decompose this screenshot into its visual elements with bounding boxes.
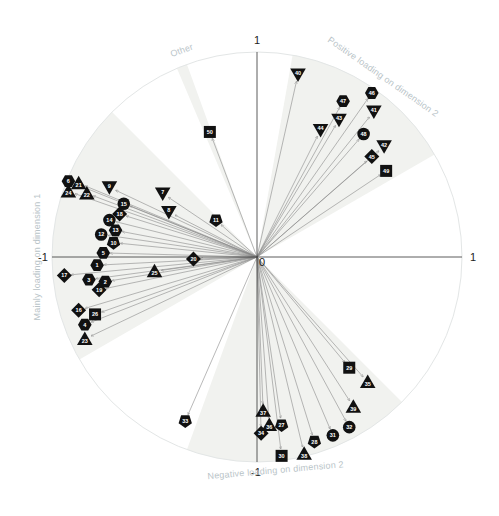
marker-label: 10 (110, 240, 116, 246)
marker-label: 21 (76, 182, 82, 188)
marker-label: 2 (104, 279, 107, 285)
marker-12: 12 (95, 228, 108, 241)
marker-label: 40 (295, 70, 301, 76)
marker-label: 5 (102, 250, 105, 256)
marker-29: 29 (343, 362, 355, 374)
marker-label: 18 (117, 211, 123, 217)
marker-50: 50 (204, 126, 216, 138)
marker-label: 19 (96, 287, 102, 293)
marker-label: 31 (330, 432, 336, 438)
marker-label: 47 (340, 98, 346, 104)
marker-33: 33 (179, 415, 192, 428)
marker-label: 44 (317, 125, 324, 131)
marker-label: 48 (361, 131, 367, 137)
origin-label: 0 (259, 256, 265, 268)
marker-label: 7 (161, 189, 164, 195)
region-label-2: Mainly loading on dimension 1 (32, 194, 42, 321)
marker-label: 37 (260, 410, 266, 416)
marker-label: 43 (336, 115, 342, 121)
marker-label: 29 (346, 365, 352, 371)
marker-label: 25 (151, 270, 157, 276)
sector-2 (187, 257, 402, 462)
marker-label: 9 (108, 183, 111, 189)
marker-label: 30 (279, 453, 285, 459)
marker-label: 6 (67, 178, 70, 184)
marker-label: 14 (106, 217, 113, 223)
region-label-3: Negative loading on dimension 2 (207, 459, 344, 481)
marker-label: 22 (84, 192, 90, 198)
marker-label: 49 (383, 168, 389, 174)
marker-label: 15 (121, 201, 127, 207)
region-label-0: Other (169, 42, 195, 59)
marker-label: 42 (381, 142, 387, 148)
marker-31: 31 (327, 429, 340, 442)
marker-label: 28 (311, 439, 317, 445)
marker-label: 45 (369, 154, 375, 160)
marker-label: 16 (76, 307, 82, 313)
marker-label: 17 (61, 272, 67, 278)
marker-label: 39 (350, 406, 356, 412)
marker-label: 23 (82, 338, 88, 344)
marker-label: 20 (190, 256, 196, 262)
marker-label: 41 (371, 107, 377, 113)
marker-14: 14 (103, 214, 116, 227)
marker-label: 35 (365, 381, 371, 387)
marker-label: 33 (182, 418, 188, 424)
marker-label: 24 (65, 190, 72, 196)
marker-label: 1 (96, 262, 99, 268)
marker-label: 26 (92, 311, 98, 317)
marker-26: 26 (89, 308, 101, 320)
marker-label: 38 (301, 453, 307, 459)
y-tick-max: 1 (254, 34, 260, 46)
marker-label: 46 (369, 90, 375, 96)
marker-32: 32 (343, 421, 356, 434)
marker-label: 13 (112, 227, 118, 233)
marker-label: 12 (98, 231, 104, 237)
marker-label: 11 (213, 217, 219, 223)
marker-49: 49 (380, 165, 392, 177)
marker-label: 32 (346, 424, 352, 430)
marker-label: 50 (207, 129, 213, 135)
x-tick-max: 1 (470, 251, 476, 263)
marker-label: 3 (87, 277, 90, 283)
correlation-circle-chart: -111-10 OtherPositive loading on dimensi… (0, 0, 499, 516)
marker-label: 27 (279, 422, 285, 428)
marker-30: 30 (276, 450, 288, 462)
marker-label: 34 (258, 430, 265, 436)
marker-label: 8 (167, 207, 170, 213)
marker-label: 36 (266, 424, 272, 430)
marker-48: 48 (357, 128, 370, 141)
